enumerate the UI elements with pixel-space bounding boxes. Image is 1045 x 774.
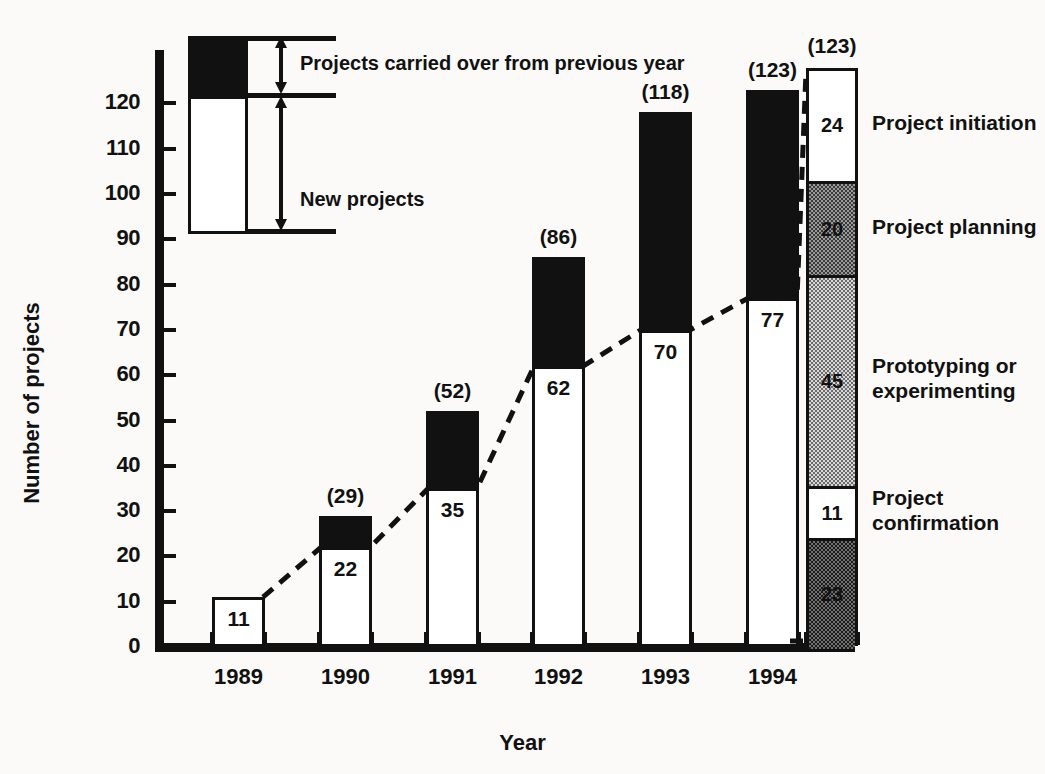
x-tick-label: 1991	[398, 664, 508, 690]
y-tick-label: 20	[88, 542, 140, 568]
y-tick-label: 30	[88, 497, 140, 523]
y-tick-label: 110	[88, 135, 140, 161]
bar-value-label: 62	[532, 376, 585, 400]
bar-value-label: 11	[212, 607, 265, 631]
breakdown-stacked-bar: 2420451123	[806, 68, 858, 646]
breakdown-segment: 23	[809, 541, 855, 649]
y-axis-title: Number of projects	[19, 253, 45, 553]
y-tick	[164, 645, 176, 649]
breakdown-segment: 24	[809, 71, 855, 184]
bar-segment-carried-over	[426, 411, 479, 488]
y-tick	[164, 419, 176, 423]
bar-segment-new-projects	[532, 366, 585, 647]
legend-label-new-projects: New projects	[300, 188, 424, 211]
y-tick-label: 0	[88, 633, 140, 659]
breakdown-category-label: Project confirmation	[872, 486, 999, 536]
bar-segment-new-projects	[639, 330, 692, 647]
y-tick	[164, 192, 176, 196]
bar-value-label: 77	[746, 308, 799, 332]
bar-segment-carried-over	[639, 112, 692, 329]
bar-total-label: (86)	[504, 225, 614, 249]
breakdown-segment: 20	[809, 184, 855, 278]
bar-total-label: (118)	[611, 80, 721, 104]
bar-total-label: (52)	[398, 379, 508, 403]
breakdown-category-label: Project planning	[872, 215, 1037, 240]
breakdown-segment: 11	[809, 489, 855, 541]
y-tick	[164, 373, 176, 377]
y-tick-label: 40	[88, 452, 140, 478]
y-tick	[164, 147, 176, 151]
y-tick	[164, 600, 176, 604]
y-axis-line	[155, 50, 164, 650]
chart-canvas: Number of projects Year 0102030405060708…	[0, 0, 1045, 774]
bar-segment-new-projects	[746, 298, 799, 647]
y-tick	[164, 283, 176, 287]
legend-swatch-new-projects	[188, 96, 248, 234]
breakdown-segment: 45	[809, 278, 855, 489]
bar-value-label: 35	[426, 498, 479, 522]
x-axis-title: Year	[0, 730, 1045, 756]
y-tick-label: 60	[88, 361, 140, 387]
y-tick	[164, 101, 176, 105]
y-tick-label: 50	[88, 407, 140, 433]
y-tick	[164, 554, 176, 558]
breakdown-category-label: Project initiation	[872, 111, 1037, 136]
x-tick-label: 1992	[504, 664, 614, 690]
legend-arrows	[268, 36, 294, 236]
y-tick	[164, 237, 176, 241]
legend-label-carried-over: Projects carried over from previous year	[300, 52, 685, 75]
y-tick-label: 100	[88, 180, 140, 206]
x-tick-label: 1994	[718, 664, 828, 690]
bar-value-label: 70	[639, 340, 692, 364]
bar-total-label: (29)	[291, 484, 401, 508]
y-tick-label: 90	[88, 225, 140, 251]
y-tick-label: 10	[88, 588, 140, 614]
bar-segment-carried-over	[319, 516, 372, 548]
x-tick-label: 1990	[291, 664, 401, 690]
y-tick-label: 120	[88, 89, 140, 115]
y-tick	[164, 328, 176, 332]
x-tick-label: 1993	[611, 664, 721, 690]
bar-segment-carried-over	[746, 90, 799, 298]
bar-segment-carried-over	[532, 257, 585, 366]
breakdown-category-label: Prototyping or experimenting	[872, 354, 1017, 404]
breakdown-total-label: (123)	[777, 34, 887, 58]
y-tick-label: 70	[88, 316, 140, 342]
y-tick-label: 80	[88, 271, 140, 297]
legend-swatch-carried-over	[188, 36, 248, 96]
bar-value-label: 22	[319, 557, 372, 581]
y-tick	[164, 509, 176, 513]
y-tick	[164, 464, 176, 468]
x-tick-label: 1989	[184, 664, 294, 690]
